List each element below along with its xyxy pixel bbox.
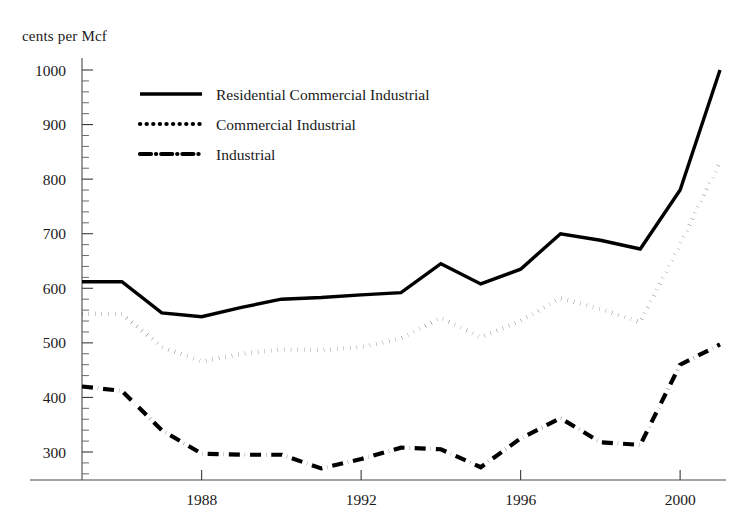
y-tick-label: 700 [43,225,67,242]
x-tick-label: 1992 [346,491,377,508]
y-tick-labels: 3004005006007008009001000 [35,62,66,461]
data-series [82,70,720,468]
x-tick-labels: 1988199219962000 [186,491,696,508]
chart-figure: cents per Mcf 3004005006007008009001000 … [0,0,739,531]
chart-legend: Residential Commercial IndustrialCommerc… [140,86,430,163]
legend-label-0: Residential Commercial Industrial [216,86,430,103]
series-line-0 [82,70,720,317]
line-chart-plot: 3004005006007008009001000 19881992199620… [0,0,739,531]
y-tick-label: 500 [43,334,67,351]
x-tick-label: 1996 [505,491,536,508]
y-tick-label: 800 [43,171,67,188]
legend-label-1: Commercial Industrial [216,116,356,133]
y-tick-label: 600 [43,280,67,297]
legend-label-2: Industrial [216,146,275,163]
y-tick-label: 1000 [35,62,66,79]
axis-ticks [82,70,680,480]
x-tick-label: 2000 [665,491,696,508]
y-tick-label: 300 [43,444,67,461]
axes [30,58,726,480]
series-line-1 [82,162,720,362]
series-line-2 [82,344,720,468]
y-tick-label: 400 [43,389,67,406]
y-tick-label: 900 [43,116,67,133]
x-tick-label: 1988 [186,491,217,508]
